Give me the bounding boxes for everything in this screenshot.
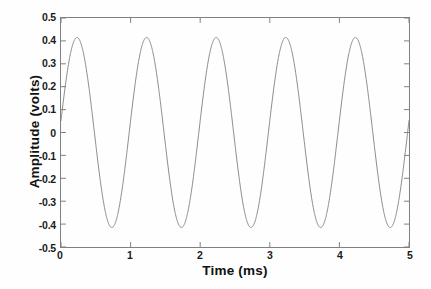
x-tick-label: 5 <box>407 250 413 261</box>
y-tick-label: 0.2 <box>42 81 56 92</box>
y-axis-ticks-right <box>404 18 409 247</box>
waveform-plot <box>61 18 409 247</box>
x-tick-label: 2 <box>197 250 203 261</box>
figure-canvas: 0.50.40.30.20.10-0.1-0.2-0.3-0.4-0.5 012… <box>0 0 431 289</box>
x-axis-ticks-top <box>61 18 409 23</box>
x-axis-ticks <box>61 242 409 247</box>
y-tick-label: -0.5 <box>39 243 56 254</box>
y-axis-ticks <box>61 18 66 247</box>
x-tick-label: 1 <box>127 250 133 261</box>
x-tick-label: 4 <box>337 250 343 261</box>
y-tick-label: 0.3 <box>42 58 56 69</box>
y-tick-label: 0 <box>50 127 56 138</box>
plot-area <box>60 17 410 248</box>
y-tick-label: 0.4 <box>42 35 56 46</box>
x-tick-label: 0 <box>57 250 63 261</box>
x-tick-label: 3 <box>267 250 273 261</box>
waveform-line <box>61 37 409 227</box>
y-tick-label: 0.5 <box>42 12 56 23</box>
y-tick-label: 0.1 <box>42 104 56 115</box>
y-axis-label: Amplitude (volts) <box>27 32 42 232</box>
x-axis-label: Time (ms) <box>60 263 410 278</box>
